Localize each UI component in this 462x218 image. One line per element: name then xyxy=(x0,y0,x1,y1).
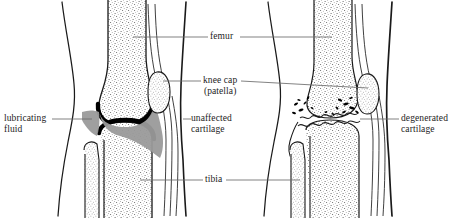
label-unaffected-cartilage: unaffected cartilage xyxy=(191,113,232,135)
label-degenerated-cartilage: degenerated cartilage xyxy=(401,113,448,135)
label-unaffected-cartilage-line1: unaffected xyxy=(191,113,232,123)
label-knee-cap-line1: knee cap xyxy=(203,75,237,85)
healthy-knee-panel xyxy=(58,0,186,218)
fibula-bone-right xyxy=(288,138,308,218)
label-tibia: tibia xyxy=(205,174,222,185)
patellar-tendon-line-2 xyxy=(379,96,385,216)
leg-skin-outline-left-2 xyxy=(264,2,281,216)
label-lubricating-fluid-line2: fluid xyxy=(4,124,46,135)
fibula-bone-left xyxy=(82,138,102,218)
knee-diagram-figure: femur knee cap (patella) lubricating flu… xyxy=(0,0,462,218)
label-degenerated-cartilage-line2: cartilage xyxy=(401,124,448,135)
joint-fluid-medial-wedge xyxy=(82,111,99,137)
label-lubricating-fluid-line1: lubricating xyxy=(4,113,46,123)
label-femur-line1: femur xyxy=(210,31,233,41)
label-tibia-line1: tibia xyxy=(205,174,222,184)
tibia-bone-right xyxy=(304,116,362,218)
degenerated-knee-panel xyxy=(264,0,392,218)
label-knee-cap-line2: (patella) xyxy=(203,86,237,97)
label-unaffected-cartilage-line2: cartilage xyxy=(191,124,232,135)
label-degenerated-cartilage-line1: degenerated xyxy=(401,113,448,123)
leg-skin-outline-left xyxy=(58,2,75,216)
label-knee-cap: knee cap (patella) xyxy=(203,75,237,97)
femur-bone-right xyxy=(302,0,362,122)
label-lubricating-fluid: lubricating fluid xyxy=(4,113,46,135)
leg-skin-outline-right-2 xyxy=(387,2,392,216)
label-femur: femur xyxy=(210,31,233,42)
patellar-tendon-line xyxy=(172,96,178,216)
leg-skin-outline-right xyxy=(181,2,186,216)
femur-bone-left xyxy=(96,0,156,126)
